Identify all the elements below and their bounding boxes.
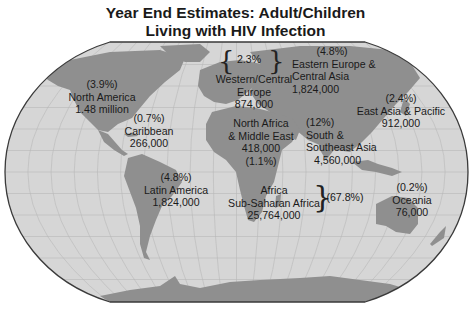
region-percent: (0.2%) (382, 181, 442, 194)
region-label-sub-saharan-africa: Africa Sub-Saharan Africa 25,764,000 (224, 184, 324, 222)
region-percent-western-central-europe: 2.3% (224, 53, 274, 66)
region-name: Latin America (131, 184, 221, 197)
region-label-south-southeast-asia: (12%) South & Southeast Asia 4,560,000 (306, 116, 386, 166)
region-name: Oceania (382, 194, 442, 207)
region-value: 1,824,000 (131, 196, 221, 209)
region-label-caribbean: (0.7%) Caribbean 266,000 (104, 112, 194, 150)
region-name: North Africa (216, 117, 306, 130)
region-value: 418,000 (216, 142, 306, 155)
region-value: 76,000 (382, 206, 442, 219)
region-name: & Middle East (216, 130, 306, 143)
region-percent: (3.9%) (52, 78, 152, 91)
region-name: Eastern Europe & (292, 58, 384, 71)
region-percent-sub-saharan-africa: (67.8%) (320, 191, 370, 204)
region-label-north-america: (3.9%) North America 1.48 million (52, 78, 152, 116)
region-name: Caribbean (104, 125, 194, 138)
region-label-latin-america: (4.8%) Latin America 1,824,000 (131, 171, 221, 209)
region-value: 266,000 (104, 137, 194, 150)
region-label-north-africa-middle-east: North Africa & Middle East 418,000 (1.1%… (216, 117, 306, 167)
region-name: South & (306, 129, 386, 142)
region-percent: (1.1%) (216, 155, 306, 168)
region-value: 25,764,000 (224, 209, 324, 222)
region-percent: (4.8%) (131, 171, 221, 184)
region-label-oceania: (0.2%) Oceania 76,000 (382, 181, 442, 219)
region-percent: (12%) (306, 116, 386, 129)
region-value: 874,000 (204, 98, 304, 111)
region-name: Western/Central (204, 73, 304, 86)
region-percent: (2.4%) (346, 92, 456, 105)
region-label-eastern-europe-central-asia: (4.8%) Eastern Europe & Central Asia 1,8… (292, 45, 384, 95)
region-name: Africa (224, 184, 324, 197)
region-label-western-central-europe: Western/Central Europe 874,000 (204, 73, 304, 111)
region-name: Southeast Asia (306, 141, 386, 154)
region-name: North America (52, 91, 152, 104)
region-value: 4,560,000 (306, 154, 386, 167)
region-name: Sub-Saharan Africa (224, 197, 324, 210)
region-name: Europe (204, 86, 304, 99)
region-name: Central Asia (292, 70, 384, 83)
region-percent: (0.7%) (104, 112, 194, 125)
region-percent: (4.8%) (292, 45, 372, 58)
